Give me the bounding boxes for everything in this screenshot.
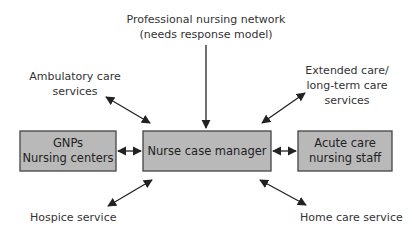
care-network-diagram: Professional nursing network (needs resp… (0, 0, 412, 234)
node-nurse-case-manager: Nurse case manager (143, 131, 271, 171)
edge-ambulatory-manager (106, 97, 150, 123)
node-label-line: Nurse case manager (147, 144, 266, 158)
node-hospice-service: Hospice service (30, 211, 117, 224)
edge-extended-manager (262, 93, 305, 123)
node-extended-long-term-care: Extended care/ long-term care services (305, 64, 389, 107)
edge-hospice-manager (108, 180, 152, 206)
node-home-care-service: Home care service (300, 211, 403, 224)
node-acute-care-nursing-staff: Acute care nursing staff (298, 131, 392, 171)
edge-homecare-manager (260, 180, 306, 205)
node-ambulatory-care-services: Ambulatory care services (29, 70, 121, 98)
node-label-line: Ambulatory care (29, 70, 121, 83)
node-label-line: services (324, 94, 369, 107)
node-professional-nursing-network: Professional nursing network (needs resp… (127, 13, 287, 41)
node-label-line: Hospice service (30, 211, 117, 224)
node-label-line: Extended care/ (305, 64, 389, 77)
node-label-line: GNPs (53, 136, 83, 150)
node-label-line: Home care service (300, 211, 403, 224)
node-label-line: Nursing centers (22, 151, 113, 165)
node-label-line: nursing staff (309, 151, 382, 165)
node-gnps-nursing-centers: GNPs Nursing centers (20, 131, 116, 171)
node-label-line: Acute care (314, 136, 375, 150)
node-label-line: Professional nursing network (127, 13, 287, 26)
node-label-line: services (52, 85, 97, 98)
node-label-line: long-term care (306, 79, 387, 92)
node-label-line: (needs response model) (139, 28, 272, 41)
